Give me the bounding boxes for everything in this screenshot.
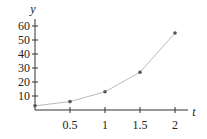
y-tick-label: 40	[18, 47, 30, 61]
x-tick-label: 1.5	[133, 118, 148, 132]
x-tick-label: 2	[172, 118, 178, 132]
y-tick-label: 60	[18, 19, 30, 33]
x-tick-label: 1	[102, 118, 108, 132]
data-point	[138, 70, 142, 74]
ticks: 0.511.52102030405060	[18, 19, 178, 132]
y-tick-label: 20	[18, 75, 30, 89]
y-tick-label: 10	[18, 89, 30, 103]
data-point	[68, 100, 72, 104]
data-point	[103, 90, 107, 94]
x-tick-label: 0.5	[63, 118, 78, 132]
line-chart: 0.511.52102030405060 y t	[0, 0, 207, 139]
data-point	[33, 104, 37, 108]
y-tick-label: 30	[18, 61, 30, 75]
data-series	[33, 31, 177, 107]
axes	[35, 19, 188, 110]
y-tick-label: 50	[18, 33, 30, 47]
data-point	[173, 31, 177, 35]
y-axis-label: y	[29, 2, 36, 16]
x-axis-label: t	[192, 105, 196, 119]
series-line	[35, 33, 175, 106]
